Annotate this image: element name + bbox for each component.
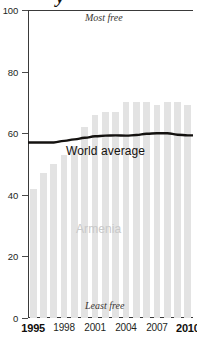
x-tick-label-2001: 2001 — [84, 322, 105, 333]
y-tick-label-80: 80 — [0, 66, 18, 77]
annotation-armenia: Armenia — [76, 222, 121, 236]
bar-2003 — [112, 112, 119, 318]
y-tick-label-0: 0 — [0, 313, 18, 324]
bar-2007 — [154, 105, 161, 318]
x-tick-label-1995: 1995 — [21, 322, 45, 334]
y-tick-label-60: 60 — [0, 128, 18, 139]
x-tick-label-1998: 1998 — [53, 322, 74, 333]
chart-root: y 020406080100 Most free Least free Worl… — [0, 0, 197, 342]
bar-series-armenia — [28, 10, 193, 318]
bar-1995 — [30, 189, 37, 318]
y-tick-label-20: 20 — [0, 251, 18, 262]
bar-1998 — [61, 155, 68, 318]
bar-2002 — [102, 112, 109, 318]
bar-1997 — [50, 164, 57, 318]
annotation-most-free: Most free — [85, 12, 123, 23]
y-tick-0 — [22, 318, 28, 319]
bar-1996 — [40, 173, 47, 318]
x-tick-label-2007: 2007 — [146, 322, 167, 333]
x-tick-label-2010: 2010 — [176, 322, 197, 334]
y-tick-label-100: 100 — [0, 5, 18, 16]
bar-2004 — [123, 102, 130, 318]
bar-2005 — [133, 102, 140, 318]
bar-2010 — [184, 105, 191, 318]
annotation-world-average: World average — [66, 144, 145, 158]
bar-2006 — [143, 102, 150, 318]
x-tick-label-2004: 2004 — [115, 322, 136, 333]
bar-2008 — [164, 102, 171, 318]
bar-2009 — [174, 102, 181, 318]
annotation-least-free: Least free — [85, 300, 124, 311]
y-tick-label-40: 40 — [0, 189, 18, 200]
title-descender-clip: y — [56, 0, 65, 8]
